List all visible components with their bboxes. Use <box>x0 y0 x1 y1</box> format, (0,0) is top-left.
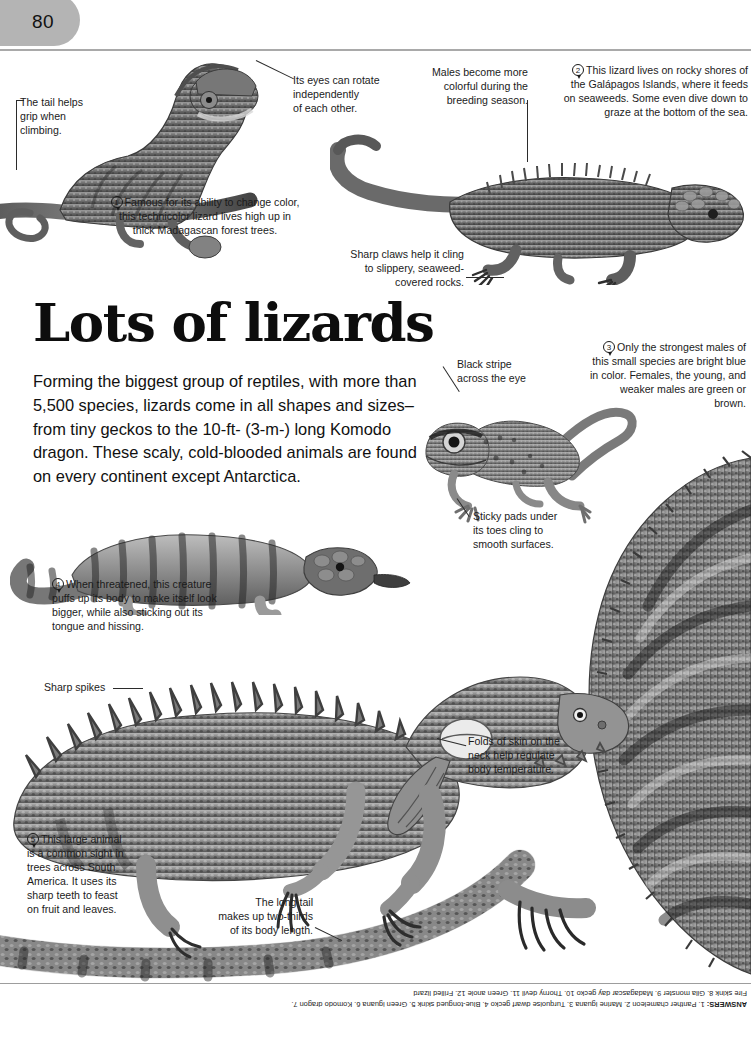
badge-number-1: 1 <box>111 196 123 208</box>
badge-number-2: 2 <box>572 64 584 76</box>
callout-number-3-text: Only the strongest males of this small s… <box>590 341 746 409</box>
book-page: 80 <box>0 0 751 1041</box>
callout-number-4: 4When threatened, this creature puffs up… <box>52 578 230 634</box>
callout-eyes-rotate: Its eyes can rotate independently of eac… <box>293 74 413 116</box>
callout-number-5-text: This large animal is a common sight in t… <box>27 833 124 915</box>
leader-line-males-colorful <box>527 100 528 162</box>
callout-number-2: 2This lizard lives on rocky shores of th… <box>560 64 748 120</box>
leader-line-tail-grip <box>16 100 17 170</box>
callout-long-tail: The long tail makes up two-thirds of its… <box>205 896 313 938</box>
callout-sticky-pads: Sticky pads under its toes cling to smoo… <box>473 510 593 552</box>
chameleon-artwork <box>0 30 340 280</box>
leader-line-tail-grip-tick <box>16 100 24 101</box>
page-title: Lots of lizards <box>33 296 434 349</box>
leader-line-sharp-spikes <box>113 688 143 689</box>
callout-number-2-text: This lizard lives on rocky shores of the… <box>564 64 748 118</box>
leader-line-sharp-claws <box>466 277 504 278</box>
panther-chameleon-photo <box>0 30 340 280</box>
hind-foot-artwork <box>498 880 638 970</box>
callout-number-1-text: Famous for its ability to change color, … <box>119 196 299 236</box>
callout-sharp-claws: Sharp claws help it cling to slippery, s… <box>320 248 464 290</box>
answers-text: 1. Panther chameleon 2. Marine iguana 3.… <box>291 990 747 1010</box>
footer-divider <box>0 983 751 984</box>
answers-label: ANSWERS: <box>707 1000 747 1009</box>
callout-number-3: 3Only the strongest males of this small … <box>588 341 746 411</box>
badge-number-3: 3 <box>603 341 615 353</box>
badge-number-4: 4 <box>52 578 64 590</box>
callout-folds-of-skin: Folds of skin on the neck help regulate … <box>468 735 586 777</box>
callout-tail-grip: The tail helps grip when climbing. <box>20 96 130 138</box>
callout-males-colorful: Males become more colorful during the br… <box>400 66 528 108</box>
answers-block: ANSWERS: 1. Panther chameleon 2. Marine … <box>291 988 747 1009</box>
intro-paragraph: Forming the biggest group of reptiles, w… <box>33 370 423 489</box>
callout-black-stripe: Black stripe across the eye <box>457 358 567 386</box>
badge-number-5: 5 <box>27 833 39 845</box>
callout-number-4-text: When threatened, this creature puffs up … <box>52 578 217 632</box>
iguana-hind-foot <box>498 880 638 970</box>
callout-number-5: 5This large animal is a common sight in … <box>27 833 127 917</box>
callout-number-1: 1Famous for its ability to change color,… <box>110 196 300 238</box>
